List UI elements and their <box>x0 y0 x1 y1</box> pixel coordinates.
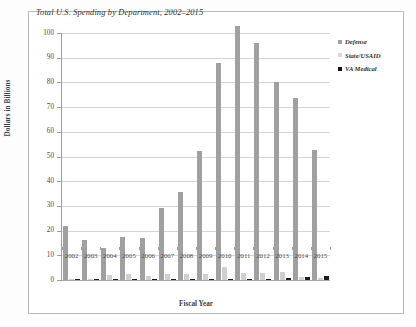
bar <box>260 273 265 280</box>
x-axis-tick-mark <box>100 247 101 250</box>
legend-swatch-icon <box>338 40 342 44</box>
y-axis-tick-label: 0 <box>28 277 54 284</box>
bar <box>94 279 99 280</box>
x-axis-tick-mark <box>215 247 216 250</box>
bar <box>209 279 214 280</box>
x-axis-tick-mark <box>158 247 159 250</box>
bar <box>88 279 93 280</box>
bar <box>75 279 80 280</box>
bar <box>159 208 164 280</box>
bar <box>247 279 252 280</box>
bar-group <box>177 33 196 280</box>
bar <box>266 279 271 280</box>
bar <box>305 277 310 280</box>
bar <box>152 279 157 280</box>
y-axis-tick-mark <box>57 107 61 108</box>
x-axis-tick-mark <box>311 247 312 250</box>
bar-group <box>273 33 292 280</box>
bar <box>216 63 221 280</box>
y-axis-tick-label: 60 <box>28 128 54 135</box>
bar-group <box>139 33 158 280</box>
y-axis-tick-label: 70 <box>28 104 54 111</box>
bar <box>235 26 240 280</box>
y-axis-tick-mark <box>57 33 61 34</box>
y-axis-tick-label: 80 <box>28 79 54 86</box>
y-axis-tick-label: 50 <box>28 153 54 160</box>
y-axis-tick-mark <box>57 280 61 281</box>
y-axis-tick-mark <box>57 82 61 83</box>
bar <box>184 274 189 280</box>
y-axis-tick-label: 100 <box>28 30 54 37</box>
y-axis-tick-label: 30 <box>28 202 54 209</box>
plot-area <box>62 33 330 280</box>
bar <box>318 278 323 280</box>
bar <box>113 279 118 280</box>
bar-group <box>196 33 215 280</box>
y-axis-tick-mark <box>57 132 61 133</box>
x-axis-tick-mark <box>62 247 63 250</box>
y-axis-tick-label: 10 <box>28 252 54 259</box>
x-axis-tick-mark <box>119 247 120 250</box>
bar <box>132 279 137 280</box>
legend-item[interactable]: VA Medical <box>338 65 408 72</box>
bar <box>126 274 131 280</box>
bar-group <box>100 33 119 280</box>
bar-group <box>215 33 234 280</box>
y-axis-tick-mark <box>57 206 61 207</box>
legend-swatch-icon <box>338 67 342 71</box>
y-axis-tick-mark <box>57 181 61 182</box>
legend-label: VA Medical <box>345 65 377 72</box>
x-axis-line <box>62 280 330 281</box>
y-axis-tick-mark <box>57 157 61 158</box>
legend-label: State/USAID <box>345 52 381 59</box>
y-axis-tick-label: 20 <box>28 227 54 234</box>
bar <box>228 279 233 280</box>
bar-group <box>158 33 177 280</box>
bar <box>165 274 170 280</box>
bar-group <box>311 33 330 280</box>
x-axis-tick-mark <box>253 247 254 250</box>
x-axis-tick-mark <box>81 247 82 250</box>
bar <box>197 151 202 280</box>
chart-legend: DefenseState/USAIDVA Medical <box>338 38 408 79</box>
bar <box>312 150 317 280</box>
x-axis-tick-mark <box>139 247 140 250</box>
x-axis-tick-mark <box>330 247 331 250</box>
bar <box>69 279 74 280</box>
bar <box>299 277 304 280</box>
bar <box>286 278 291 280</box>
x-axis-tick-label: 2015 <box>300 252 340 259</box>
chart-title: Total U.S. Spending by Department, 2002–… <box>36 8 203 17</box>
x-axis-tick-mark <box>292 247 293 250</box>
x-axis-tick-mark <box>234 247 235 250</box>
y-axis-tick-label: 90 <box>28 54 54 61</box>
legend-item[interactable]: State/USAID <box>338 52 408 59</box>
bar <box>274 82 279 280</box>
bar <box>324 276 329 280</box>
bar-group <box>234 33 253 280</box>
bar <box>241 273 246 280</box>
x-axis-tick-mark <box>177 247 178 250</box>
bar-group <box>119 33 138 280</box>
y-axis-tick-label: 40 <box>28 178 54 185</box>
bar <box>146 276 151 280</box>
bar-group <box>253 33 272 280</box>
legend-swatch-icon <box>338 53 342 57</box>
bar <box>82 240 87 280</box>
legend-item[interactable]: Defense <box>338 38 408 45</box>
y-axis-tick-mark <box>57 231 61 232</box>
bar <box>190 279 195 280</box>
bar <box>254 43 259 280</box>
bar <box>171 279 176 280</box>
bar <box>203 274 208 280</box>
bar <box>178 192 183 280</box>
y-axis-tick-mark <box>57 58 61 59</box>
bar-group <box>292 33 311 280</box>
bar <box>222 267 227 280</box>
bar <box>107 275 112 280</box>
x-axis-tick-mark <box>196 247 197 250</box>
bar-group <box>81 33 100 280</box>
bar-group <box>62 33 81 280</box>
y-axis-title: Dollars in Billions <box>4 48 12 168</box>
bar <box>280 272 285 280</box>
